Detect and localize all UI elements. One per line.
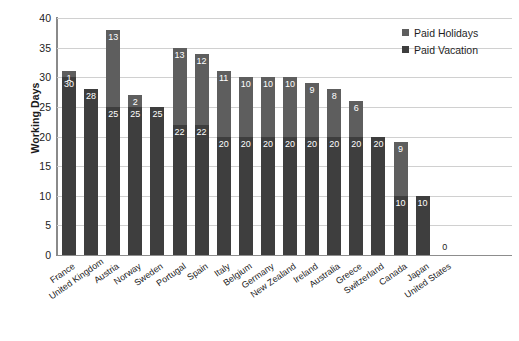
legend-label: Paid Holidays: [414, 27, 478, 39]
bar-group[interactable]: 20: [371, 18, 385, 255]
bar-value-label-paid-vacation: 20: [349, 139, 363, 149]
bar-value-label-zero: 0: [438, 242, 452, 252]
bar-segment-paid-vacation[interactable]: [84, 89, 98, 255]
y-tick-label: 5: [5, 219, 51, 231]
gridline-0: [57, 255, 512, 256]
bar-segment-paid-vacation[interactable]: [173, 125, 187, 255]
bar-value-label-paid-vacation: 28: [84, 91, 98, 101]
bar-value-label-paid-vacation: 20: [217, 139, 231, 149]
bar-segment-paid-vacation[interactable]: [106, 107, 120, 255]
bar-value-label-paid-holidays: 1: [62, 73, 76, 83]
bar-segment-paid-vacation[interactable]: [128, 107, 142, 255]
bar-value-label-paid-holidays: 12: [195, 56, 209, 66]
y-tick-label: 0: [5, 249, 51, 261]
bar-value-label-paid-vacation: 10: [394, 198, 408, 208]
bar-value-label-paid-vacation: 25: [150, 109, 164, 119]
bar-group[interactable]: 28: [84, 18, 98, 255]
bar-value-label-paid-holidays: 10: [283, 79, 297, 89]
y-tick-label: 10: [5, 190, 51, 202]
bar-value-label-paid-vacation: 25: [106, 109, 120, 119]
bar-segment-paid-vacation[interactable]: [305, 137, 319, 256]
bar-value-label-paid-holidays: 10: [261, 79, 275, 89]
bar-group[interactable]: 2010: [283, 18, 297, 255]
bar-segment-paid-vacation[interactable]: [327, 137, 341, 256]
bar-value-label-paid-holidays: 9: [394, 144, 408, 154]
bar-value-label-paid-vacation: 10: [416, 198, 430, 208]
y-tick-label: 40: [5, 12, 51, 24]
bar-value-label-paid-holidays: 2: [128, 97, 142, 107]
bar-segment-paid-vacation[interactable]: [62, 77, 76, 255]
bar-value-label-paid-vacation: 20: [371, 139, 385, 149]
bar-value-label-paid-holidays: 8: [327, 91, 341, 101]
bar-value-label-paid-holidays: 13: [106, 32, 120, 42]
bar-value-label-paid-vacation: 20: [283, 139, 297, 149]
bar-value-label-paid-vacation: 22: [173, 127, 187, 137]
chart-container: Working Days 0510152025303540 3012825132…: [0, 0, 519, 341]
bar-group[interactable]: 208: [327, 18, 341, 255]
bar-segment-paid-vacation[interactable]: [371, 137, 385, 256]
legend-swatch-icon: [402, 46, 409, 53]
bar-group[interactable]: 25: [150, 18, 164, 255]
bar-group[interactable]: 2212: [195, 18, 209, 255]
legend-item[interactable]: Paid Vacation: [402, 42, 510, 57]
bar-segment-paid-vacation[interactable]: [261, 137, 275, 256]
bar-value-label-paid-vacation: 25: [128, 109, 142, 119]
bar-group[interactable]: 2010: [261, 18, 275, 255]
bar-segment-paid-vacation[interactable]: [239, 137, 253, 256]
bar-group[interactable]: 2513: [106, 18, 120, 255]
y-tick-label: 20: [5, 131, 51, 143]
y-tick-label: 30: [5, 71, 51, 83]
legend-label: Paid Vacation: [414, 44, 478, 56]
bar-segment-paid-vacation[interactable]: [349, 137, 363, 256]
bar-value-label-paid-holidays: 10: [239, 79, 253, 89]
chart-legend: Paid HolidaysPaid Vacation: [402, 25, 510, 59]
bar-group[interactable]: 209: [305, 18, 319, 255]
bar-group[interactable]: 2213: [173, 18, 187, 255]
bar-value-label-paid-holidays: 13: [173, 50, 187, 60]
bar-value-label-paid-holidays: 9: [305, 85, 319, 95]
bar-value-label-paid-vacation: 20: [261, 139, 275, 149]
bar-value-label-paid-holidays: 11: [217, 73, 231, 83]
bar-value-label-paid-vacation: 20: [239, 139, 253, 149]
bar-group[interactable]: 252: [128, 18, 142, 255]
bar-segment-paid-vacation[interactable]: [150, 107, 164, 255]
bar-group[interactable]: 2011: [217, 18, 231, 255]
bar-value-label-paid-vacation: 22: [195, 127, 209, 137]
bar-segment-paid-vacation[interactable]: [283, 137, 297, 256]
bar-group[interactable]: 2010: [239, 18, 253, 255]
bar-group[interactable]: 301: [62, 18, 76, 255]
y-tick-label: 35: [5, 42, 51, 54]
bar-value-label-paid-vacation: 20: [327, 139, 341, 149]
bar-segment-paid-vacation[interactable]: [217, 137, 231, 256]
bar-group[interactable]: 206: [349, 18, 363, 255]
bar-segment-paid-vacation[interactable]: [195, 125, 209, 255]
y-tick-label: 25: [5, 101, 51, 113]
bar-value-label-paid-holidays: 6: [349, 103, 363, 113]
legend-swatch-icon: [402, 29, 409, 36]
legend-item[interactable]: Paid Holidays: [402, 25, 510, 40]
bar-value-label-paid-vacation: 20: [305, 139, 319, 149]
y-tick-label: 15: [5, 160, 51, 172]
